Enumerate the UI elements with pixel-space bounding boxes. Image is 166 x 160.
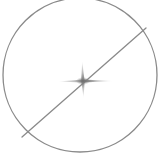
vector-figure — [0, 0, 166, 160]
sparkle-core-glow — [76, 77, 90, 85]
figure-canvas — [0, 0, 166, 160]
